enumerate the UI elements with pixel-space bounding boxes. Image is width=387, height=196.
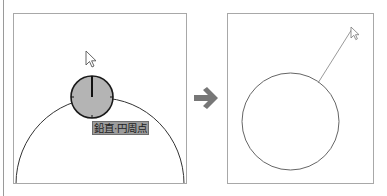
drawn-circle xyxy=(242,73,339,170)
rubber-band-line xyxy=(318,29,352,83)
arrow-cursor-icon xyxy=(351,27,359,40)
snap-label: 鉛直·円周点 xyxy=(92,121,149,135)
left-edge-divider xyxy=(3,0,4,196)
before-panel: 鉛直·円周点 xyxy=(13,13,187,184)
vertical-circumference-snap-marker xyxy=(71,76,113,118)
right-arrow-icon xyxy=(193,86,221,110)
arrow-cursor-icon xyxy=(86,51,96,67)
before-drawing xyxy=(14,14,187,184)
after-drawing xyxy=(228,14,374,184)
after-panel xyxy=(227,13,374,184)
